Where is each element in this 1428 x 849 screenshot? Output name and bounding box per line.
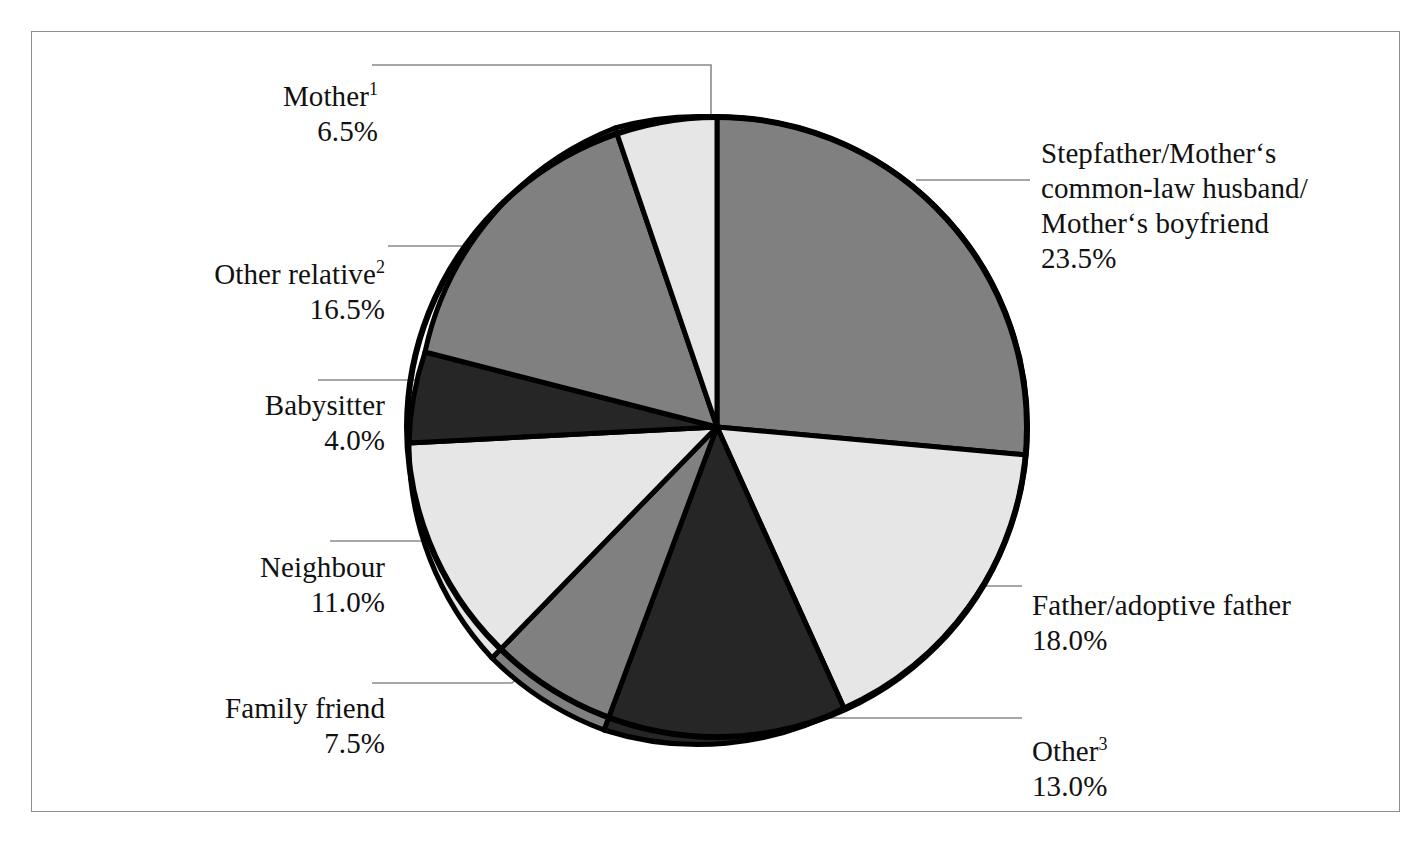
pie-label-other-relative-percent: 16.5% [150, 292, 385, 327]
pie-label-babysitter[interactable]: Babysitter 4.0% [165, 353, 385, 493]
pie-label-neighbour-text: Neighbour [260, 551, 385, 583]
pie-label-stepfather-line3: Mother‘s boyfriend [1041, 207, 1269, 239]
pie-label-other-percent: 13.0% [1032, 769, 1232, 804]
leader-line-mother [372, 65, 711, 117]
pie-label-father-percent: 18.0% [1032, 623, 1377, 658]
pie-label-other-footnote: 3 [1099, 734, 1108, 754]
pie-label-stepfather-line1: Stepfather/Mother‘s [1041, 137, 1276, 169]
pie-slice-stepfather[interactable] [717, 117, 1027, 455]
pie-label-other[interactable]: Other3 13.0% [1032, 699, 1232, 839]
pie-label-other-relative-text: Other relative [214, 258, 376, 290]
pie-label-family-friend[interactable]: Family friend 7.5% [128, 656, 385, 796]
pie-label-father[interactable]: Father/adoptive father 18.0% [1032, 553, 1377, 693]
pie-label-family-friend-text: Family friend [225, 692, 385, 724]
pie-label-family-friend-percent: 7.5% [128, 726, 385, 761]
pie-label-babysitter-text: Babysitter [265, 389, 385, 421]
pie-label-stepfather[interactable]: Stepfather/Mother‘s common-law husband/ … [1041, 101, 1371, 311]
chart-page: Mother1 6.5% Other relative2 16.5% Babys… [0, 0, 1428, 849]
pie-label-mother-text: Mother [283, 80, 369, 112]
pie-label-father-text: Father/adoptive father [1032, 589, 1291, 621]
pie-label-babysitter-percent: 4.0% [165, 423, 385, 458]
pie-label-mother-percent: 6.5% [243, 114, 378, 149]
pie-label-neighbour-percent: 11.0% [155, 585, 385, 620]
pie-label-stepfather-percent: 23.5% [1041, 241, 1371, 276]
pie-label-mother[interactable]: Mother1 6.5% [243, 44, 378, 184]
pie-label-mother-footnote: 1 [369, 79, 378, 99]
pie-label-neighbour[interactable]: Neighbour 11.0% [155, 515, 385, 655]
pie-label-other-relative[interactable]: Other relative2 16.5% [150, 222, 385, 362]
pie-label-other-text: Other [1032, 735, 1099, 767]
pie-label-stepfather-line2: common-law husband/ [1041, 172, 1308, 204]
pie-label-other-relative-footnote: 2 [376, 257, 385, 277]
